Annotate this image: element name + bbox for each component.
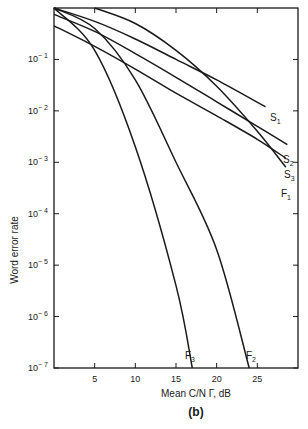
curve-label-f3: F3 [185, 350, 195, 363]
curve-label-s3: S3 [284, 169, 295, 182]
y-tick-label: 10− 3 [28, 155, 48, 167]
x-tick-label: 15 [171, 374, 181, 384]
curve-label-s1: S1 [270, 112, 281, 125]
x-tick-label: 20 [212, 374, 222, 384]
x-axis-title: Mean C/N Γ, dB [161, 388, 231, 399]
curves [54, 8, 287, 368]
x-tick-label: 10 [130, 374, 140, 384]
y-tick-label: 10− 6 [28, 310, 48, 322]
curve-f2 [54, 8, 249, 368]
x-tick-label: 5 [92, 374, 97, 384]
y-tick-label: 10− 1 [28, 52, 48, 64]
word-error-rate-chart: 51015202510− 110− 210− 310− 410− 510− 61… [0, 0, 308, 429]
curve-label-f1: F1 [281, 188, 291, 201]
plot-border [54, 8, 298, 368]
y-tick-label: 10− 7 [28, 361, 48, 373]
y-tick-label: 10− 2 [28, 104, 48, 116]
x-tick-label: 25 [252, 374, 262, 384]
panel-label: (b) [188, 405, 203, 419]
plot-frame: 51015202510− 110− 210− 310− 410− 510− 61… [28, 8, 298, 384]
curve-labels: S1S2S3F1F2F3 [185, 112, 295, 363]
y-tick-label: 10− 4 [28, 207, 48, 219]
y-tick-label: 10− 5 [28, 258, 48, 270]
y-axis-title: Word error rate [9, 216, 20, 284]
curve-f1 [95, 8, 286, 167]
